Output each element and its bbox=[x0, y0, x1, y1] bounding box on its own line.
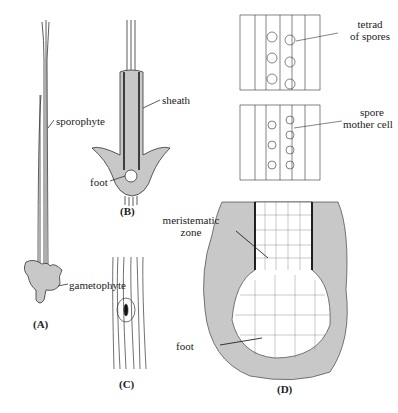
label-spore-line2: mother cell bbox=[343, 118, 393, 130]
label-gametophyte: gametophyte bbox=[69, 279, 126, 291]
tetrad-drawing bbox=[240, 15, 338, 90]
panel-label-b: (B) bbox=[120, 205, 135, 217]
label-sporophyte: sporophyte bbox=[56, 115, 105, 127]
label-meristematic-line1: meristematic bbox=[156, 214, 226, 226]
panel-c-drawing bbox=[113, 257, 146, 369]
panel-label-c: (C) bbox=[119, 378, 134, 390]
label-foot-d: foot bbox=[176, 340, 194, 352]
label-spore-line1: spore bbox=[344, 106, 398, 118]
label-meristematic-line2: zone bbox=[156, 226, 226, 238]
panel-label-d: (D) bbox=[277, 383, 292, 395]
botanical-figure bbox=[0, 0, 398, 413]
panel-label-a: (A) bbox=[33, 318, 48, 330]
label-sheath: sheath bbox=[162, 94, 190, 106]
label-foot-b: foot bbox=[90, 176, 108, 188]
label-tetrad-line1: tetrad bbox=[340, 18, 398, 30]
spore-mother-cell-drawing bbox=[240, 105, 342, 180]
label-tetrad-line2: of spores bbox=[338, 30, 398, 42]
panel-a-drawing bbox=[24, 20, 68, 303]
